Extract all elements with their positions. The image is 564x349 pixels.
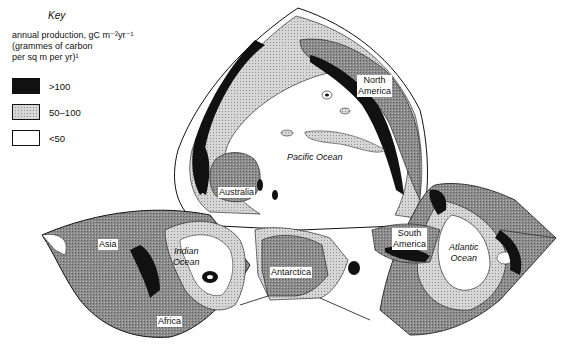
key-item-low: <50 bbox=[12, 130, 65, 146]
key-item-high: >100 bbox=[12, 78, 70, 94]
key-label-medium: 50–100 bbox=[49, 107, 81, 118]
label-north-america-2: America bbox=[358, 86, 391, 97]
key-title: Key bbox=[48, 10, 65, 21]
key-units: annual production, gC m⁻²yr⁻¹ bbox=[12, 30, 182, 41]
key-units-explain-1: (grammes of carbon bbox=[12, 41, 182, 52]
label-atlantic-2: Ocean bbox=[449, 253, 479, 264]
key-label-high: >100 bbox=[49, 81, 70, 92]
key-label-low: <50 bbox=[49, 133, 65, 144]
label-indian-1: Indian bbox=[173, 246, 200, 257]
label-north-america-1: North bbox=[358, 75, 391, 86]
label-south-america: South America bbox=[392, 228, 427, 250]
label-africa: Africa bbox=[157, 316, 182, 327]
swatch-low bbox=[12, 130, 40, 146]
label-atlantic-ocean: Atlantic Ocean bbox=[448, 242, 480, 264]
key-description: annual production, gC m⁻²yr⁻¹ (grammes o… bbox=[12, 30, 182, 63]
label-indian-2: Ocean bbox=[173, 257, 200, 268]
label-south-america-2: America bbox=[393, 239, 426, 250]
label-australia: Australia bbox=[218, 187, 255, 198]
swatch-medium bbox=[12, 104, 40, 120]
label-asia: Asia bbox=[98, 239, 118, 250]
key-units-explain-2: per sq m per yr)¹ bbox=[12, 52, 182, 63]
key-item-medium: 50–100 bbox=[12, 104, 81, 120]
label-south-america-1: South bbox=[393, 228, 426, 239]
indian-lobe bbox=[42, 210, 250, 337]
pacific-lobe bbox=[174, 8, 427, 230]
label-indian-ocean: Indian Ocean bbox=[172, 246, 201, 268]
label-pacific-ocean: Pacific Ocean bbox=[286, 152, 344, 163]
label-antarctica: Antarctica bbox=[270, 267, 312, 278]
swatch-high bbox=[12, 78, 40, 94]
label-atlantic-1: Atlantic bbox=[449, 242, 479, 253]
label-north-america: North America bbox=[357, 75, 392, 97]
